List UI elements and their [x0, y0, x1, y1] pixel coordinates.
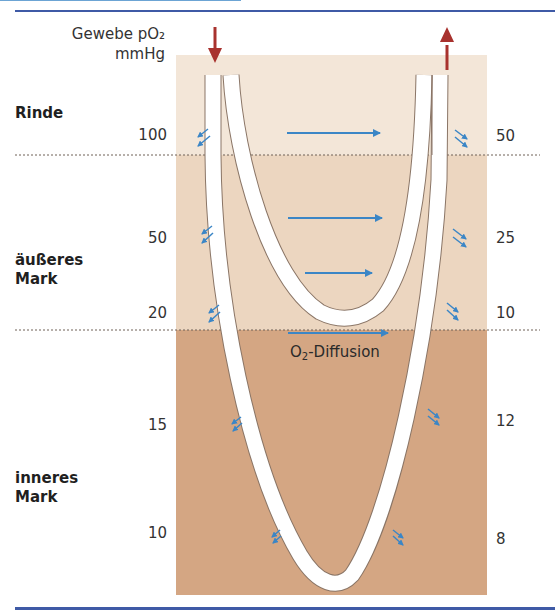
zone-label-rinde: Rinde [15, 104, 63, 123]
kidney-vessel-diagram [0, 0, 555, 616]
value-left-inneres-lower: 10 [148, 524, 167, 542]
value-right-aeusseres-upper: 25 [496, 229, 515, 247]
value-right-inneres-upper: 12 [496, 412, 515, 430]
value-right-aeusseres-lower: 10 [496, 304, 515, 322]
zone-label-aeusseres-line2: Mark [15, 270, 83, 289]
o2-diffusion-label: O2-Diffusion [290, 343, 380, 362]
value-left-aeusseres-upper: 50 [148, 229, 167, 247]
zone-label-aeusseres-mark: äußeres Mark [15, 251, 83, 289]
header-title: Gewebe pO₂ mmHg [15, 24, 165, 64]
header-title-line1: Gewebe pO₂ [15, 24, 165, 44]
o2-prefix: O [290, 343, 302, 361]
zone-label-inneres-line2: Mark [15, 488, 78, 507]
header-title-line2: mmHg [15, 44, 165, 64]
value-left-aeusseres-lower: 20 [148, 304, 167, 322]
value-left-inneres-upper: 15 [148, 416, 167, 434]
zone-label-aeusseres-line1: äußeres [15, 251, 83, 270]
o2-suffix: -Diffusion [308, 343, 380, 361]
value-left-rinde: 100 [138, 126, 167, 144]
zone-label-inneres-mark: inneres Mark [15, 469, 78, 507]
value-right-inneres-lower: 8 [496, 530, 506, 548]
value-right-rinde: 50 [496, 127, 515, 145]
zone-inneres-mark [176, 330, 487, 595]
bottom-rule [15, 607, 555, 610]
zone-label-inneres-line1: inneres [15, 469, 78, 488]
